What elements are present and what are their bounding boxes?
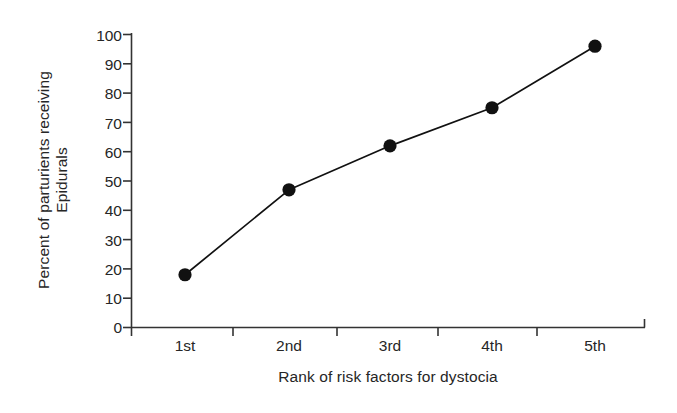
data-point [588, 40, 601, 53]
x-tick-label: 1st [150, 338, 220, 354]
x-tick-label: 4th [457, 338, 527, 354]
x-axis-title: Rank of risk factors for dystocia [131, 368, 645, 386]
data-point [485, 101, 498, 114]
data-point [282, 183, 295, 196]
x-axis-ticks [132, 328, 538, 337]
y-axis-ticks [123, 35, 131, 328]
data-markers [178, 40, 601, 282]
x-tick-label: 5th [560, 338, 630, 354]
x-tick-label: 3rd [355, 338, 425, 354]
data-point [178, 268, 191, 281]
chart-figure: Percent of parturients receiving Epidura… [0, 0, 677, 413]
x-tick-label: 2nd [254, 338, 324, 354]
data-line [185, 46, 595, 275]
data-point [383, 139, 396, 152]
